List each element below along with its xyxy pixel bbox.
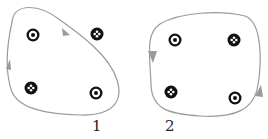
figure-label-2: 2: [165, 117, 175, 135]
arrow-icon: [62, 28, 70, 36]
dot-icon: [90, 87, 103, 100]
dot-icon: [27, 29, 40, 42]
cross-icon: [165, 86, 178, 99]
cross-icon: [25, 82, 38, 95]
loop-1: [7, 8, 119, 116]
diagram-canvas: [0, 0, 268, 139]
figure-label-1: 1: [92, 117, 102, 135]
dot-icon: [229, 92, 242, 105]
cross-icon: [91, 28, 104, 41]
dot-icon: [169, 34, 182, 47]
loop-2: [149, 13, 260, 117]
cross-icon: [228, 34, 241, 47]
